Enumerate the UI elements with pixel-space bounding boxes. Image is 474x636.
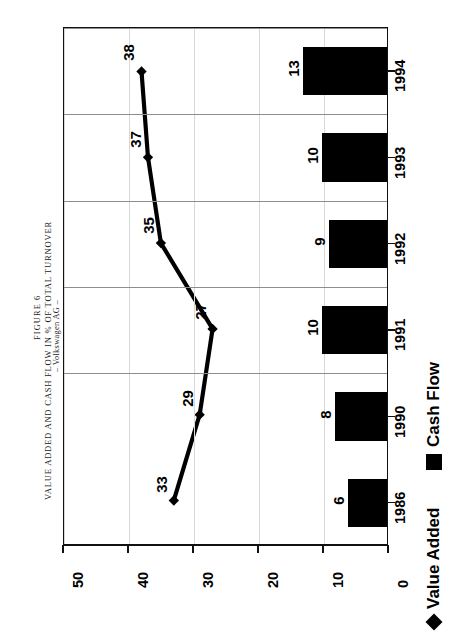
square-marker-icon: [426, 454, 442, 470]
figure-subtitle: – Volkswagen AG –: [52, 300, 61, 372]
chart-legend: Value AddedCash Flow: [398, 0, 474, 636]
point-value-label-1994: 38: [120, 40, 137, 66]
bar-value-label-1990: 8: [317, 401, 334, 427]
bar-value-label-1986: 6: [330, 487, 347, 513]
category-separator-line: [64, 373, 387, 374]
bar-value-label-1992: 9: [310, 228, 327, 254]
legend-label: Cash Flow: [424, 362, 444, 447]
bar-cash-flow-1992: [329, 220, 388, 268]
legend-item-cash-flow[interactable]: Cash Flow: [424, 362, 444, 470]
legend-item-value-added[interactable]: Value Added: [424, 508, 444, 628]
value-gridline: [259, 28, 260, 544]
value-axis-label-40: 40: [135, 572, 151, 588]
value-axis-line: [63, 545, 388, 546]
value-gridline: [194, 28, 195, 544]
value-axis-label-20: 20: [265, 572, 281, 588]
value-added-marker-1990: [194, 410, 204, 420]
value-tick-30: [192, 545, 193, 553]
bar-value-label-1993: 10: [304, 142, 321, 168]
figure-page: FIGURE 6 VALUE ADDED AND CASH FLOW IN % …: [0, 0, 474, 636]
value-tick-40: [127, 545, 128, 553]
bar-cash-flow-1993: [322, 133, 387, 181]
value-tick-20: [257, 545, 258, 553]
value-added-marker-1994: [136, 66, 146, 76]
point-value-label-1986: 33: [152, 471, 169, 497]
value-added-marker-1986: [169, 495, 179, 505]
figure-number-label: FIGURE 6: [33, 295, 42, 340]
category-separator-line: [64, 114, 387, 115]
value-axis-label-10: 10: [330, 572, 346, 588]
bar-value-label-1994: 13: [284, 56, 301, 82]
point-value-label-1990: 29: [178, 385, 195, 411]
bar-cash-flow-1994: [303, 47, 388, 95]
bar-cash-flow-1986: [348, 479, 387, 527]
point-value-label-1991: 27: [191, 299, 208, 325]
value-tick-10: [322, 545, 323, 553]
value-added-line-series: [64, 28, 387, 544]
category-separator-line: [64, 28, 387, 29]
category-separator-line: [64, 287, 387, 288]
legend-label: Value Added: [424, 508, 444, 609]
value-added-polyline: [142, 72, 213, 501]
value-tick-50: [62, 545, 63, 553]
value-axis-label-30: 30: [200, 572, 216, 588]
bar-cash-flow-1991: [322, 306, 387, 354]
value-axis-label-50: 50: [70, 572, 86, 588]
value-gridline: [324, 28, 325, 544]
value-tick-0: [387, 545, 388, 553]
bar-value-label-1991: 10: [304, 315, 321, 341]
bar-cash-flow-1990: [335, 392, 387, 440]
point-value-label-1992: 35: [139, 212, 156, 238]
diamond-marker-icon: [426, 614, 443, 631]
point-value-label-1993: 37: [126, 126, 143, 152]
value-added-marker-1993: [143, 152, 153, 162]
value-gridline: [129, 28, 130, 544]
category-separator-line: [64, 201, 387, 202]
plot-area: [63, 27, 388, 545]
value-gridline: [64, 28, 65, 544]
figure-caption-block: FIGURE 6 VALUE ADDED AND CASH FLOW IN % …: [0, 0, 70, 560]
